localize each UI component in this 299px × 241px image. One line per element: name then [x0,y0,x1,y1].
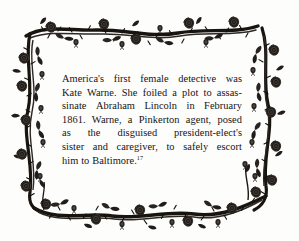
frame-top-branch [26,16,258,50]
text-line-2: KateWarne.Shefoiledaplottoassas- [62,86,242,100]
frame-bottom-branch [34,161,266,231]
footnote-marker: 17 [137,153,143,160]
fact-paragraph: America'sfirstfemaledetectivewas KateWar… [62,72,242,167]
text-line-4: 1861.Warne,aPinkertonagent,posed [62,113,242,127]
text-line-1: America'sfirstfemaledetectivewas [62,72,242,86]
text-line-6: sisterandcaregiver,tosafelyescort [62,140,242,154]
text-line-7: him to Baltimore.17 [62,154,242,168]
illustrated-fact-box-page: America'sfirstfemaledetectivewas KateWar… [0,0,299,241]
text-line-5: asthedisguisedpresident-elect's [62,126,242,140]
fact-text-block: America'sfirstfemaledetectivewas KateWar… [62,72,242,167]
frame-left-branch [11,34,46,212]
frame-right-branch [249,28,286,210]
text-line-3: sinateAbrahamLincolninFebruary [62,99,242,113]
